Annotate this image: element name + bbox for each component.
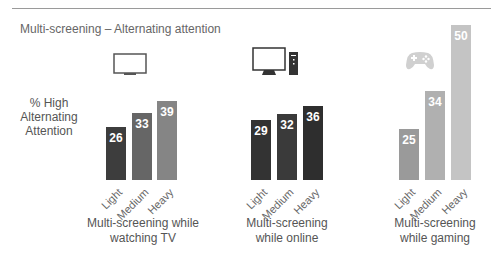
bar-gaming-light: 25 [399,129,419,180]
bar-gaming-medium: 34 [425,91,445,180]
group-gaming: 25 34 50 Light Medium Heavy Multi-screen… [0,0,491,263]
bar-gaming-heavy: 50 [451,25,471,180]
group-label: Multi-screeningwhile gaming [365,216,491,246]
category-label: Heavy [439,186,470,217]
gamepad-icon [405,50,435,72]
